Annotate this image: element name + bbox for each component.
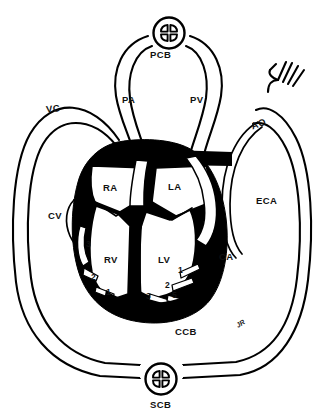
cardiac-circulation-diagram: PCB PA PV VC AO RA LA ECA CV CA RV LV CC… [0, 0, 322, 418]
scb-node [140, 359, 183, 395]
marker-right-2: 2 [165, 281, 170, 290]
label-eca: ECA [256, 196, 277, 206]
diagram-artwork [0, 0, 322, 418]
marker-left-1: 1 [106, 288, 111, 297]
label-pcb: PCB [150, 50, 171, 60]
label-ra: RA [103, 183, 118, 193]
label-cv: CV [48, 211, 62, 221]
aortic-arch-branches [268, 62, 304, 92]
label-ccb: CCB [175, 327, 197, 337]
label-vc: VC [45, 103, 60, 114]
marker-right-small: 5 [172, 291, 177, 300]
label-pv: PV [190, 95, 203, 105]
label-ca: CA [219, 252, 234, 262]
label-la: LA [168, 182, 181, 192]
marker-center-3: 3 [146, 292, 151, 301]
label-rv: RV [104, 255, 118, 265]
label-scb: SCB [150, 400, 171, 410]
label-pa: PA [122, 95, 135, 105]
pcb-node [154, 18, 185, 49]
label-lv: LV [158, 255, 170, 265]
marker-left-3: 3 [86, 240, 91, 249]
marker-left-2: 2 [91, 273, 96, 282]
marker-right-1: 1 [178, 266, 183, 275]
